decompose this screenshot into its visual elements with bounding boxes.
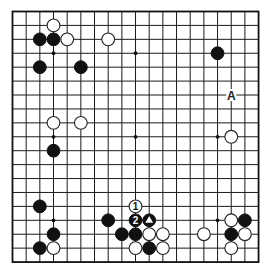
white-stone[interactable]: [156, 242, 169, 255]
black-stone[interactable]: [129, 228, 142, 241]
point-label-a[interactable]: A: [227, 89, 236, 103]
white-stone-disc: [47, 242, 60, 255]
black-stone[interactable]: [115, 228, 128, 241]
white-stone[interactable]: [156, 228, 169, 241]
black-stone[interactable]: [143, 242, 156, 255]
black-stone[interactable]: [33, 61, 46, 74]
black-stone[interactable]: [211, 47, 224, 60]
go-board[interactable]: 12 A: [0, 0, 266, 273]
white-stone[interactable]: [102, 33, 115, 46]
white-stone[interactable]: [74, 116, 87, 129]
black-stone-disc: [143, 242, 156, 255]
black-stone[interactable]: [33, 242, 46, 255]
move-number-label: 2: [133, 215, 139, 226]
star-point: [134, 51, 138, 55]
black-stone[interactable]: [225, 228, 238, 241]
white-stone[interactable]: [129, 242, 142, 255]
black-stone[interactable]: [47, 33, 60, 46]
white-stone-disc: [225, 242, 238, 255]
white-stone-disc: [143, 228, 156, 241]
go-board-canvas[interactable]: 12 A: [0, 0, 266, 273]
black-stone-disc: [47, 228, 60, 241]
white-stone-disc: [156, 228, 169, 241]
white-stone[interactable]: [197, 228, 210, 241]
black-stone-disc: [33, 33, 46, 46]
black-stone[interactable]: [238, 214, 251, 227]
black-stone-disc: [33, 242, 46, 255]
black-stone-disc: [211, 47, 224, 60]
black-stone[interactable]: 2: [129, 214, 142, 227]
black-stone-disc: [47, 33, 60, 46]
white-stone[interactable]: [225, 214, 238, 227]
white-stone-disc: [61, 33, 74, 46]
white-stone-disc: [238, 228, 251, 241]
black-stone[interactable]: [143, 214, 156, 227]
black-stone[interactable]: [74, 61, 87, 74]
black-stone-disc: [115, 228, 128, 241]
white-stone[interactable]: [238, 228, 251, 241]
white-stone-disc: [225, 130, 238, 143]
black-stone[interactable]: [47, 228, 60, 241]
star-point: [52, 135, 56, 139]
white-stone-disc: [225, 214, 238, 227]
white-stone[interactable]: [225, 130, 238, 143]
white-stone[interactable]: [47, 242, 60, 255]
black-stone-disc: [47, 144, 60, 157]
move-number-label: 1: [133, 201, 139, 212]
white-stone[interactable]: [61, 33, 74, 46]
black-stone[interactable]: [33, 200, 46, 213]
board-labels: A: [226, 89, 236, 103]
white-stone[interactable]: [47, 19, 60, 32]
white-stone-disc: [47, 116, 60, 129]
white-stone-disc: [74, 116, 87, 129]
white-stone-disc: [129, 242, 142, 255]
star-point: [52, 51, 56, 55]
black-stone-disc: [102, 214, 115, 227]
white-stone-disc: [197, 228, 210, 241]
white-stone[interactable]: [225, 242, 238, 255]
white-stone-disc: [47, 19, 60, 32]
black-stone-disc: [33, 200, 46, 213]
white-stone-disc: [156, 242, 169, 255]
black-stone-disc: [33, 61, 46, 74]
black-stone[interactable]: [102, 214, 115, 227]
star-point: [52, 218, 56, 222]
white-stone[interactable]: [143, 228, 156, 241]
black-stone[interactable]: [33, 33, 46, 46]
black-stone-disc: [74, 61, 87, 74]
black-stone-disc: [225, 228, 238, 241]
black-stone[interactable]: [47, 144, 60, 157]
white-stone[interactable]: [47, 116, 60, 129]
black-stone-disc: [238, 214, 251, 227]
white-stone-disc: [102, 33, 115, 46]
white-stone[interactable]: 1: [129, 200, 142, 213]
star-point: [216, 218, 220, 222]
star-point: [134, 135, 138, 139]
black-stone-disc: [129, 228, 142, 241]
star-point: [216, 135, 220, 139]
